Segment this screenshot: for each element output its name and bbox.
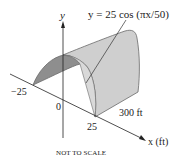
equation-label: y = 25 cos (πx/50) [88,9,169,20]
tick-label-neg25: −25 [11,87,27,97]
tick-label-zero: 0 [56,102,61,112]
y-axis-arrowhead-icon [61,21,65,28]
x-axis-label: x (ft) [148,137,168,147]
tick-label-25: 25 [87,122,97,132]
length-label: 300 ft [119,108,143,118]
x-axis-arrowhead-icon [139,135,146,141]
hangar-roof-surface [63,30,139,117]
front-arch-face [33,55,80,85]
y-axis-label: y [60,10,65,21]
hangar-diagram: y y = 25 cos (πx/50) −25 0 25 300 ft x (… [0,0,181,166]
scale-note: NOT TO SCALE [56,150,106,157]
